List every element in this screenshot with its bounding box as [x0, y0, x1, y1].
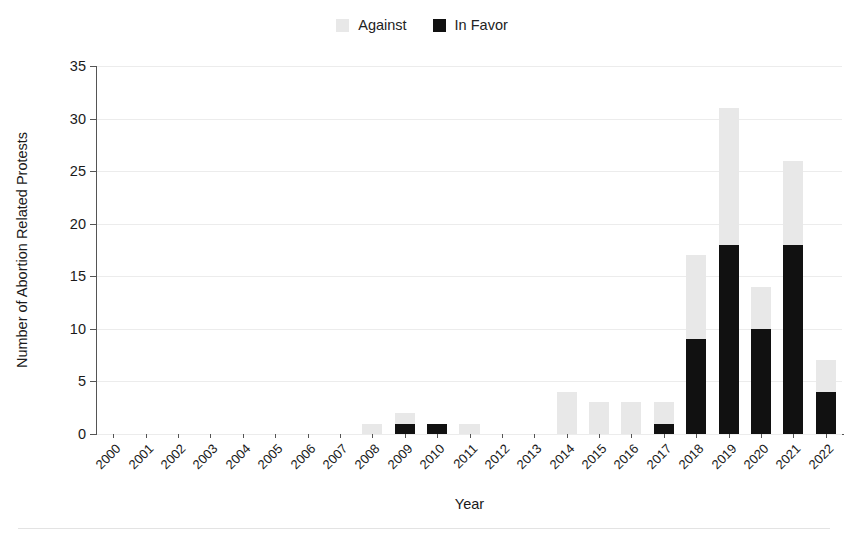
x-tick-mark — [761, 434, 762, 438]
x-tick-mark — [664, 434, 665, 438]
legend-swatch-in-favor — [433, 19, 446, 32]
chart-legend: Against In Favor — [0, 18, 844, 33]
x-tick-label: 2014 — [543, 441, 578, 476]
x-tick-label: 2017 — [640, 441, 675, 476]
x-tick-label: 2003 — [186, 441, 221, 476]
x-tick-mark — [599, 434, 600, 438]
x-tick-mark — [826, 434, 827, 438]
x-tick-label: 2015 — [575, 441, 610, 476]
x-tick-mark — [146, 434, 147, 438]
bar-segment-against[interactable] — [557, 392, 577, 434]
bar-segment-in-favor[interactable] — [395, 424, 415, 435]
y-tick-mark — [90, 66, 97, 67]
x-tick-label: 2010 — [413, 441, 448, 476]
x-tick-label: 2013 — [510, 441, 545, 476]
bar-segment-against[interactable] — [459, 424, 479, 435]
bar-segment-in-favor[interactable] — [427, 424, 447, 435]
bar-segment-in-favor[interactable] — [816, 392, 836, 434]
bar-segment-in-favor[interactable] — [751, 329, 771, 434]
y-tick-label: 5 — [78, 373, 86, 389]
x-tick-mark — [696, 434, 697, 438]
x-tick-mark — [243, 434, 244, 438]
bar-segment-against[interactable] — [589, 402, 609, 434]
x-tick-mark — [534, 434, 535, 438]
bar-column[interactable] — [816, 360, 836, 434]
legend-item-against: Against — [336, 18, 406, 33]
x-axis-title: Year — [97, 496, 842, 512]
y-axis-title: Number of Abortion Related Protests — [14, 132, 30, 368]
bar-column[interactable] — [621, 402, 641, 434]
bar-column[interactable] — [427, 424, 447, 435]
x-tick-label: 2021 — [769, 441, 804, 476]
x-tick-mark — [308, 434, 309, 438]
y-tick-mark — [90, 224, 97, 225]
y-tick-mark — [90, 329, 97, 330]
bar-column[interactable] — [654, 402, 674, 434]
x-tick-label: 2008 — [348, 441, 383, 476]
bar-segment-against[interactable] — [362, 424, 382, 435]
bar-segment-against[interactable] — [621, 402, 641, 434]
x-tick-label: 2002 — [154, 441, 189, 476]
y-tick-mark — [90, 381, 97, 382]
x-tick-mark — [502, 434, 503, 438]
bar-column[interactable] — [589, 402, 609, 434]
y-tick-mark — [90, 434, 97, 435]
legend-swatch-against — [336, 19, 349, 32]
x-tick-label: 2011 — [445, 441, 480, 476]
bar-segment-against[interactable] — [719, 108, 739, 245]
bar-column[interactable] — [459, 424, 479, 435]
x-tick-mark — [405, 434, 406, 438]
bar-segment-against[interactable] — [783, 161, 803, 245]
x-tick-mark — [178, 434, 179, 438]
x-tick-label: 2006 — [283, 441, 318, 476]
bar-segment-in-favor[interactable] — [783, 245, 803, 434]
bar-segment-against[interactable] — [751, 287, 771, 329]
legend-item-in-favor: In Favor — [433, 18, 508, 33]
x-tick-mark — [567, 434, 568, 438]
x-tick-label: 2019 — [705, 441, 740, 476]
x-tick-label: 2009 — [381, 441, 416, 476]
x-tick-label: 2020 — [737, 441, 772, 476]
x-tick-mark — [113, 434, 114, 438]
bar-column[interactable] — [783, 161, 803, 434]
bar-segment-in-favor[interactable] — [719, 245, 739, 434]
y-tick-label: 35 — [70, 58, 86, 74]
bar-column[interactable] — [557, 392, 577, 434]
bar-column[interactable] — [395, 413, 415, 434]
y-tick-label: 20 — [70, 216, 86, 232]
y-tick-label: 30 — [70, 111, 86, 127]
bar-segment-in-favor[interactable] — [686, 339, 706, 434]
x-axis: 2000200120022003200420052006200720082009… — [97, 434, 842, 435]
x-tick-label: 2012 — [478, 441, 513, 476]
x-tick-mark — [210, 434, 211, 438]
y-tick-label: 25 — [70, 163, 86, 179]
x-tick-mark — [729, 434, 730, 438]
bar-column[interactable] — [362, 424, 382, 435]
legend-label-against: Against — [358, 18, 406, 33]
bar-segment-against[interactable] — [686, 255, 706, 339]
x-tick-label: 2000 — [89, 441, 124, 476]
bar-series-group — [97, 66, 842, 434]
y-tick-label: 10 — [70, 321, 86, 337]
bar-segment-against[interactable] — [816, 360, 836, 392]
plot-area: Number of Abortion Related Protests 0510… — [97, 66, 842, 434]
x-tick-mark — [340, 434, 341, 438]
bar-segment-in-favor[interactable] — [654, 424, 674, 435]
bar-column[interactable] — [686, 255, 706, 434]
x-tick-mark — [437, 434, 438, 438]
y-tick-label: 15 — [70, 268, 86, 284]
footer-divider — [18, 528, 830, 529]
x-tick-label: 2005 — [251, 441, 286, 476]
bar-segment-against[interactable] — [395, 413, 415, 424]
abortion-protests-bar-chart: Against In Favor Number of Abortion Rela… — [0, 0, 844, 536]
x-tick-mark — [793, 434, 794, 438]
legend-label-in-favor: In Favor — [455, 18, 508, 33]
bar-segment-against[interactable] — [654, 402, 674, 423]
x-tick-mark — [372, 434, 373, 438]
bar-column[interactable] — [719, 108, 739, 434]
x-tick-label: 2016 — [607, 441, 642, 476]
bar-column[interactable] — [751, 287, 771, 434]
x-tick-label: 2001 — [122, 441, 157, 476]
x-tick-mark — [470, 434, 471, 438]
x-tick-label: 2007 — [316, 441, 351, 476]
